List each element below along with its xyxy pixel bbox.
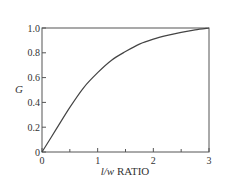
x-axis: 0123 xyxy=(40,148,212,166)
x-tick-label: 3 xyxy=(207,155,212,166)
x-axis-label-italic: l/w xyxy=(101,165,115,177)
y-axis: 00.20.40.60.81.0 xyxy=(28,23,47,158)
x-axis-label: l/w RATIO xyxy=(101,165,150,177)
x-tick-label: 0 xyxy=(40,155,45,166)
y-tick-label: 0.4 xyxy=(28,97,41,108)
y-axis-label: G xyxy=(15,83,23,95)
y-tick-label: 0.8 xyxy=(28,47,41,58)
x-axis-label-rest: RATIO xyxy=(114,165,149,177)
chart: 00.20.40.60.81.0 0123 G l/w RATIO xyxy=(0,0,226,184)
x-tick-label: 2 xyxy=(151,155,156,166)
data-line xyxy=(42,28,209,152)
y-tick-label: 1.0 xyxy=(28,23,41,34)
plot-frame xyxy=(42,28,209,152)
y-tick-label: 0.2 xyxy=(28,122,41,133)
y-tick-label: 0.6 xyxy=(28,72,41,83)
x-tick-label: 1 xyxy=(95,155,100,166)
